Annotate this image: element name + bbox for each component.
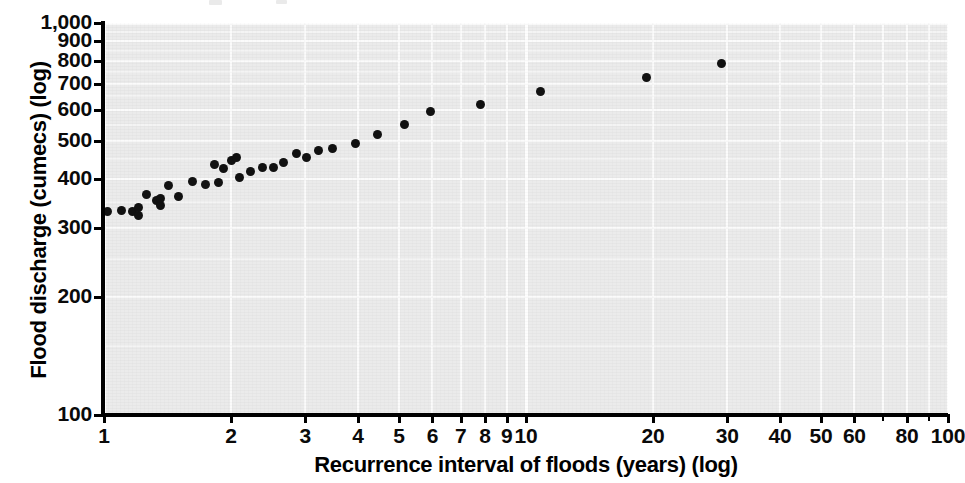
- y-axis-tick: [94, 83, 102, 86]
- gridline-vertical: [460, 23, 462, 415]
- data-point: [400, 120, 409, 129]
- data-point: [235, 173, 244, 182]
- data-point: [292, 149, 301, 158]
- gridline-vertical: [484, 23, 486, 415]
- x-axis-tick: [431, 414, 434, 423]
- gridline-vertical: [726, 23, 728, 415]
- x-axis-tick: [103, 414, 106, 423]
- x-axis-tick-label: 6: [427, 424, 438, 448]
- y-axis-tick-label: 600: [58, 97, 92, 121]
- data-point: [536, 87, 545, 96]
- gridline-vertical: [304, 23, 306, 415]
- data-point: [142, 190, 151, 199]
- data-point: [373, 130, 382, 139]
- data-point: [642, 73, 651, 82]
- gridline-vertical: [230, 23, 232, 415]
- x-axis-tick-label: 60: [843, 424, 866, 448]
- y-axis-tick-label: 100: [58, 402, 92, 426]
- data-point: [426, 107, 435, 116]
- gridline-vertical: [928, 23, 930, 415]
- y-axis-tick: [94, 40, 102, 43]
- data-point: [117, 206, 126, 215]
- data-point: [476, 100, 485, 109]
- data-point: [164, 181, 173, 190]
- data-point: [232, 153, 241, 162]
- y-axis-tick-label: 200: [58, 284, 92, 308]
- gridline-vertical: [853, 23, 855, 415]
- data-point: [279, 158, 288, 167]
- x-axis-tick: [304, 414, 307, 423]
- y-axis-line: [101, 21, 105, 417]
- x-axis-tick: [947, 414, 950, 423]
- x-axis-tick-label: 20: [642, 424, 665, 448]
- data-point: [302, 153, 311, 162]
- x-axis-tick-label: 80: [896, 424, 919, 448]
- x-axis-tick-label: 2: [225, 424, 236, 448]
- x-axis-tick: [906, 414, 909, 423]
- y-axis-tick-label: 700: [58, 71, 92, 95]
- gridline-vertical: [820, 23, 822, 415]
- y-axis-tick: [94, 178, 102, 181]
- data-point: [258, 163, 267, 172]
- plot-area: [104, 23, 948, 415]
- data-point: [134, 203, 143, 212]
- y-axis-tick-label: 500: [58, 128, 92, 152]
- x-axis-tick-label: 100: [931, 424, 965, 448]
- x-axis-tick-label: 1: [98, 424, 109, 448]
- y-axis-tick: [94, 227, 102, 230]
- x-axis-tick-label: 10: [515, 424, 538, 448]
- gridline-vertical: [506, 23, 508, 415]
- x-axis-tick: [853, 414, 856, 423]
- gridline-vertical: [525, 23, 528, 415]
- x-axis-tick-label: 4: [352, 424, 363, 448]
- y-axis-tick-label: 300: [58, 215, 92, 239]
- x-axis-tick: [820, 414, 823, 423]
- data-point: [210, 160, 219, 169]
- y-axis-tick: [94, 140, 102, 143]
- x-axis-tick: [506, 414, 509, 423]
- data-point: [269, 163, 278, 172]
- x-axis-tick: [357, 414, 360, 423]
- data-point: [201, 180, 210, 189]
- y-axis-tick: [94, 22, 102, 25]
- data-point: [219, 164, 228, 173]
- data-point: [134, 211, 143, 220]
- data-point: [246, 167, 255, 176]
- data-point: [214, 178, 223, 187]
- x-axis-tick: [726, 414, 729, 423]
- x-axis-tick: [779, 414, 782, 423]
- data-point: [104, 207, 112, 216]
- y-axis-tick: [94, 60, 102, 63]
- gridline-vertical: [431, 23, 433, 415]
- gridline-vertical: [882, 23, 884, 415]
- gridline-vertical: [779, 23, 781, 415]
- y-axis-tick: [94, 414, 102, 417]
- gridline-vertical: [398, 23, 400, 415]
- x-axis-title: Recurrence interval of floods (years) (l…: [104, 452, 948, 478]
- x-axis-tick-label: 5: [393, 424, 404, 448]
- x-axis-tick: [882, 414, 884, 421]
- y-axis-tick-label: 400: [58, 166, 92, 190]
- x-axis-tick-label: 8: [479, 424, 490, 448]
- x-axis-tick-label: 9: [501, 424, 512, 448]
- y-axis-title: Flood discharge (cumecs) (log): [22, 0, 56, 440]
- x-axis-tick: [460, 414, 463, 423]
- data-point: [717, 59, 726, 68]
- gridline-vertical: [906, 23, 908, 415]
- scan-artifact: [209, 0, 222, 5]
- data-point: [188, 177, 197, 186]
- x-axis-tick: [652, 414, 655, 423]
- gridline-vertical: [652, 23, 654, 415]
- x-axis-tick-label: 3: [300, 424, 311, 448]
- y-axis-tick: [94, 109, 102, 112]
- x-axis-tick-label: 50: [809, 424, 832, 448]
- data-point: [328, 144, 337, 153]
- x-axis-tick: [484, 414, 487, 423]
- x-axis-tick-label: 7: [455, 424, 466, 448]
- x-axis-tick: [230, 414, 233, 423]
- x-axis-tick: [525, 414, 528, 423]
- gridline-vertical: [357, 23, 359, 415]
- gridline-vertical: [947, 23, 948, 415]
- x-axis-tick: [398, 414, 401, 423]
